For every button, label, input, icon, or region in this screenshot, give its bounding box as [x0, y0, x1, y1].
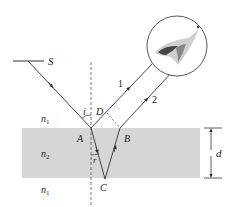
- label-point-d: D: [95, 106, 104, 117]
- ray-2-arrow: [143, 99, 147, 103]
- label-ray-1: 1: [118, 78, 123, 89]
- label-ray-2: 2: [152, 94, 157, 105]
- label-medium-bottom: n1: [41, 184, 50, 197]
- eye-icon: [147, 16, 207, 76]
- label-point-b: B: [124, 133, 130, 144]
- diagram: S 1 2 i D A B r C n1 n2 n1 d: [0, 0, 235, 207]
- label-angle-i: i: [83, 106, 86, 117]
- label-point-c: C: [100, 182, 107, 193]
- label-thickness: d: [216, 147, 222, 159]
- incident-ray-arrow: [48, 82, 52, 87]
- wavefront-db: [107, 113, 120, 128]
- ray-1-arrow: [125, 88, 129, 92]
- label-medium-top: n1: [41, 113, 50, 126]
- ray-1: [91, 64, 152, 128]
- label-point-a: A: [76, 133, 84, 144]
- incident-ray: [28, 61, 91, 128]
- label-source: S: [48, 55, 54, 67]
- label-angle-r: r: [93, 155, 97, 165]
